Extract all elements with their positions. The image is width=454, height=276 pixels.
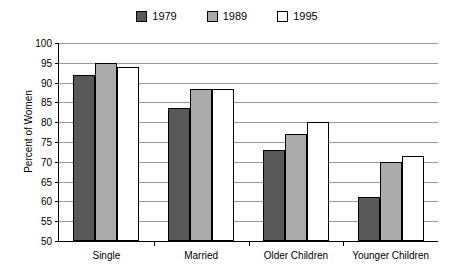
legend-swatch-icon <box>277 11 288 22</box>
legend-label: 1979 <box>152 11 176 22</box>
y-axis-tick-label: 100 <box>35 38 52 49</box>
bar <box>402 156 424 241</box>
bar <box>380 162 402 241</box>
y-axis-tick-label: 55 <box>41 216 52 227</box>
y-axis-tick-label: 95 <box>41 58 52 69</box>
category-label: Older Children <box>264 250 328 261</box>
category-label: Single <box>92 250 120 261</box>
bar <box>117 67 139 241</box>
bar <box>212 89 234 241</box>
y-axis-tick-label: 80 <box>41 117 52 128</box>
bar <box>285 134 307 241</box>
y-axis-tick-label: 70 <box>41 157 52 168</box>
legend-entry: 1979 <box>136 11 176 22</box>
legend-label: 1989 <box>223 11 247 22</box>
y-axis-tick-label: 90 <box>41 78 52 89</box>
category-separator-tick <box>154 241 155 246</box>
y-axis-tick-label: 75 <box>41 137 52 148</box>
category-separator-tick <box>249 241 250 246</box>
y-axis-tick-label: 65 <box>41 177 52 188</box>
y-axis-tick-label: 60 <box>41 196 52 207</box>
y-axis-tick <box>55 241 59 242</box>
bar-chart: 197919891995 Percent of Women 1009590858… <box>0 0 454 276</box>
legend-entry: 1989 <box>207 11 247 22</box>
y-axis-tick-label: 50 <box>41 236 52 247</box>
bar <box>190 89 212 241</box>
bar <box>358 197 380 241</box>
y-axis-title: Percent of Women <box>23 52 34 212</box>
bar <box>168 108 190 241</box>
category-label: Married <box>184 250 218 261</box>
legend-swatch-icon <box>136 11 147 22</box>
y-axis-tick-label: 85 <box>41 97 52 108</box>
bar <box>95 63 117 241</box>
legend-swatch-icon <box>207 11 218 22</box>
category-label: Younger Children <box>352 250 429 261</box>
bar <box>73 75 95 241</box>
bars-group <box>59 43 438 241</box>
legend-label: 1995 <box>293 11 317 22</box>
legend-entry: 1995 <box>277 11 317 22</box>
category-separator-tick <box>343 241 344 246</box>
chart-legend: 197919891995 <box>0 11 454 22</box>
bar <box>307 122 329 241</box>
bar <box>263 150 285 241</box>
plot-area: 10095908580757065605550 SingleMarriedOld… <box>58 43 438 242</box>
